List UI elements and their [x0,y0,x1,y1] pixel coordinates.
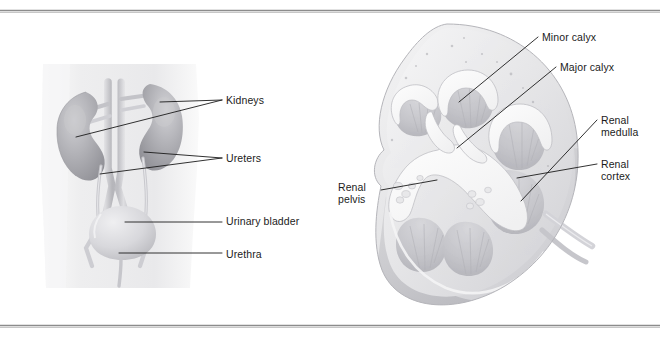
label-renal-cortex-line1: Renal [601,158,629,170]
label-kidneys: Kidneys [226,94,264,106]
label-renal-medulla-line2: medulla [601,126,639,138]
figure-canvas: Kidneys Ureters Urinary bladder Urethra [0,0,672,348]
left-labels: Kidneys Ureters Urinary bladder Urethra [226,94,300,260]
figure-divider-top [0,11,660,13]
label-renal-cortex-line2: cortex [601,170,631,182]
urethra [119,259,121,286]
label-ureters: Ureters [226,152,261,164]
label-renal-pelvis-line1: Renal [338,181,366,193]
urinary-bladder [89,206,156,260]
figure-divider-bottom [0,326,660,328]
urinary-system-illustration [41,64,199,288]
torso-shading [41,64,70,288]
kidney-section-illustration [370,24,592,322]
label-minor-calyx: Minor calyx [542,31,597,43]
label-urethra: Urethra [226,248,262,260]
label-renal-pelvis-line2: pelvis [338,193,365,205]
label-major-calyx: Major calyx [560,61,615,73]
label-renal-medulla-line1: Renal [601,114,629,126]
label-urinary-bladder: Urinary bladder [226,215,300,227]
figure-root: Kidneys Ureters Urinary bladder Urethra [0,0,672,348]
